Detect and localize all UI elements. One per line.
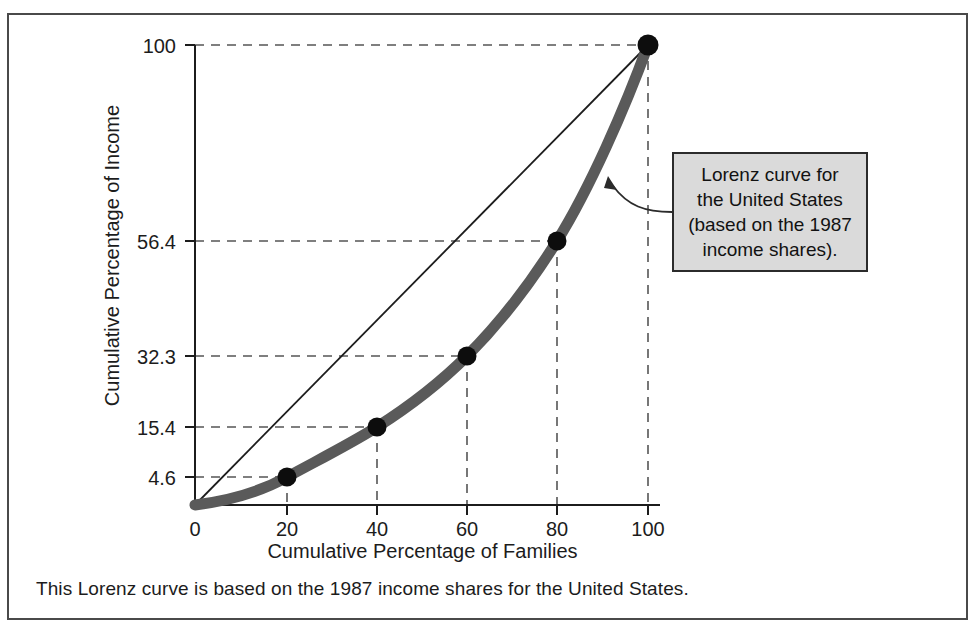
x-tick-labels: 0 20 40 60 80 100: [189, 518, 664, 540]
x-tick-label-0: 0: [189, 518, 200, 540]
equality-line: [195, 45, 648, 505]
y-tick-label-56-4: 56.4: [137, 231, 176, 253]
data-point-80-56-4: [548, 232, 567, 251]
y-tick-label-100: 100: [143, 35, 176, 57]
lorenz-curve-figure: 100 56.4 32.3 15.4 4.6 0 20 40 60 80 100…: [0, 0, 976, 636]
data-point-40-15-4: [368, 418, 387, 437]
figure-caption: This Lorenz curve is based on the 1987 i…: [36, 578, 689, 600]
callout-line-1: Lorenz curve for: [701, 162, 838, 187]
data-point-60-32-3: [458, 347, 477, 366]
y-tick-labels: 100 56.4 32.3 15.4 4.6: [137, 35, 176, 489]
callout-line-3: (based on the 1987: [688, 212, 852, 237]
x-tick-label-100: 100: [631, 518, 664, 540]
x-tick-label-40: 40: [366, 518, 388, 540]
axes: [195, 45, 660, 505]
callout-line-4: income shares).: [702, 237, 837, 262]
x-axis-title: Cumulative Percentage of Families: [195, 540, 650, 563]
data-point-100-100: [638, 35, 659, 56]
y-tick-label-15-4: 15.4: [137, 417, 176, 439]
x-tick-marks: [287, 505, 648, 515]
y-tick-label-4-6: 4.6: [148, 467, 176, 489]
y-tick-marks: [185, 45, 195, 477]
callout-line-2: the United States: [697, 187, 843, 212]
x-tick-label-20: 20: [276, 518, 298, 540]
data-point-20-4-6: [278, 468, 297, 487]
y-axis-title: Cumulative Percentage of Income: [95, 80, 131, 430]
x-tick-label-80: 80: [546, 518, 568, 540]
y-axis-title-text: Cumulative Percentage of Income: [102, 104, 125, 405]
callout-leader-arrow: [604, 176, 672, 212]
data-points: [278, 35, 659, 487]
lorenz-curve-callout: Lorenz curve for the United States (base…: [672, 152, 868, 272]
y-tick-label-32-3: 32.3: [137, 346, 176, 368]
x-tick-label-60: 60: [456, 518, 478, 540]
